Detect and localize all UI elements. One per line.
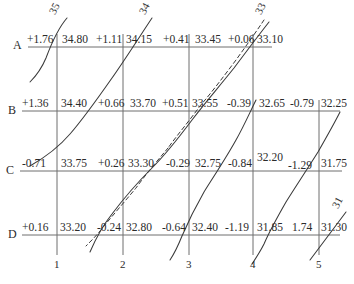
cell-diff-b4: -0.39: [227, 98, 251, 110]
cell-diff-c5: -1.29: [288, 160, 312, 172]
cell-value-d5: 31.30: [321, 222, 347, 234]
cell-diff-d2: -0.24: [97, 222, 121, 234]
cell-diff-b1: +1.36: [22, 98, 49, 110]
figure-canvas: 35 34 33 31 A B C D +1.76 34.80 +1.11 34…: [0, 0, 354, 284]
cell-diff-b3: +0.51: [162, 98, 189, 110]
cell-value-c2: 33.30: [128, 158, 154, 170]
cell-diff-c4: -0.84: [228, 158, 252, 170]
cell-diff-d5: 1.74: [292, 222, 312, 234]
column-label-5: 5: [316, 259, 322, 270]
cell-value-b4: 32.65: [259, 98, 285, 110]
cell-diff-d4: -1.19: [225, 222, 249, 234]
cell-diff-d1: +0.16: [22, 222, 49, 234]
contour-curve-35: [30, 18, 67, 82]
cell-diff-d3: -0.64: [162, 222, 186, 234]
column-label-2: 2: [120, 259, 126, 270]
cell-value-b3: 33.55: [192, 98, 218, 110]
cell-value-d2: 32.80: [126, 222, 152, 234]
cell-value-a1: 34.80: [62, 34, 88, 46]
row-gridlines: [20, 47, 342, 235]
cell-value-b2: 33.70: [130, 98, 156, 110]
contour-curve-32: [170, 100, 256, 260]
cell-value-c4: 32.20: [257, 152, 283, 164]
contour-curve-31b: [252, 112, 340, 264]
cell-diff-b5: -0.79: [290, 98, 314, 110]
row-label-c: C: [6, 164, 14, 176]
cell-diff-a4: +0.06: [228, 34, 255, 46]
row-label-a: A: [13, 39, 22, 51]
cell-value-c1: 33.75: [61, 158, 87, 170]
cell-diff-c1: -0.71: [22, 158, 46, 170]
cell-value-c5: 31.75: [321, 158, 347, 170]
cell-value-a2: 34.15: [126, 34, 152, 46]
contour-curve-33: [90, 22, 269, 252]
contour-curves-dashed: [86, 20, 264, 246]
cell-value-a4: 33.10: [257, 34, 283, 46]
cell-value-d1: 33.20: [60, 222, 86, 234]
cell-diff-a2: +1.11: [96, 34, 122, 46]
cell-value-d3: 32.40: [192, 222, 218, 234]
contour-curve-31: [310, 212, 346, 260]
cell-diff-c2: +0.26: [98, 158, 125, 170]
column-label-3: 3: [186, 259, 192, 270]
cell-value-a3: 33.45: [195, 34, 221, 46]
cell-diff-a3: +0.41: [163, 34, 190, 46]
row-label-d: D: [8, 228, 17, 240]
cell-diff-c3: -0.29: [166, 158, 190, 170]
cell-value-b5: 32.25: [321, 98, 347, 110]
cell-diff-a1: +1.76: [27, 34, 54, 46]
cell-value-d4: 31.85: [257, 222, 283, 234]
row-label-b: B: [8, 104, 16, 116]
cell-diff-b2: +0.66: [98, 98, 125, 110]
cell-value-c3: 32.75: [195, 158, 221, 170]
cell-value-b1: 34.40: [61, 98, 87, 110]
column-label-1: 1: [54, 259, 60, 270]
column-label-4: 4: [250, 259, 256, 270]
